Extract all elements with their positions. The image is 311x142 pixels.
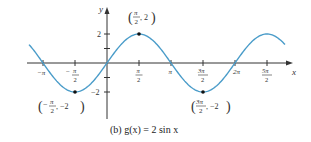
figure-caption: (b) g(x) = 2 sin x — [110, 124, 178, 136]
xtick-2pi: 2π — [233, 68, 241, 76]
max-point — [137, 32, 141, 36]
annotation-min-right: ( 3π 2 , −2 ) — [191, 98, 231, 115]
svg-text:−: − — [43, 100, 48, 109]
svg-text:, −2: , −2 — [56, 102, 69, 111]
svg-text:π: π — [134, 9, 138, 17]
xtick-pi: π — [169, 68, 173, 76]
svg-text:, 2: , 2 — [140, 13, 148, 22]
svg-text:3π: 3π — [195, 98, 204, 106]
min-point-left — [73, 90, 77, 94]
svg-text:3π: 3π — [197, 67, 205, 74]
svg-text:π: π — [73, 67, 77, 74]
svg-text:π: π — [50, 98, 54, 106]
min-point-right — [201, 90, 205, 94]
xtick-3half-pi: 3π 2 — [197, 67, 208, 83]
ytick-2: 2 — [97, 30, 101, 39]
svg-text:π: π — [137, 67, 141, 74]
y-axis-label: y — [98, 4, 103, 14]
x-axis-label: x — [291, 67, 296, 77]
svg-text:2: 2 — [135, 18, 139, 26]
svg-text:(: ( — [128, 10, 133, 26]
annotation-min-left: ( − π 2 , −2 ) — [38, 98, 85, 115]
xtick-half-pi: π 2 — [136, 67, 143, 83]
x-axis-arrow-icon — [286, 61, 293, 66]
svg-text:2: 2 — [199, 107, 203, 115]
xtick-neg-half-pi: − π 2 — [66, 67, 79, 83]
y-axis-arrow-icon — [105, 7, 110, 14]
xtick-5half-pi: 5π 2 — [262, 67, 272, 83]
ytick-neg2: −2 — [91, 88, 100, 97]
svg-text:2: 2 — [137, 76, 140, 83]
annotation-max: ( π 2 , 2 ) — [128, 9, 156, 26]
svg-text:2: 2 — [74, 76, 77, 83]
svg-text:5π: 5π — [262, 67, 269, 74]
svg-text:): ) — [226, 99, 231, 115]
svg-text:, −2: , −2 — [206, 102, 219, 111]
xtick-neg-pi: −π — [37, 69, 46, 77]
svg-text:2: 2 — [265, 76, 268, 83]
sine-chart: y x 2 −2 −π − π 2 π 2 π 3π 2 2π 5π 2 ( π… — [0, 0, 311, 142]
svg-text:2: 2 — [201, 76, 204, 83]
svg-text:): ) — [151, 10, 156, 26]
svg-text:2: 2 — [51, 107, 55, 115]
svg-text:−: − — [66, 68, 70, 76]
svg-text:): ) — [80, 99, 85, 115]
